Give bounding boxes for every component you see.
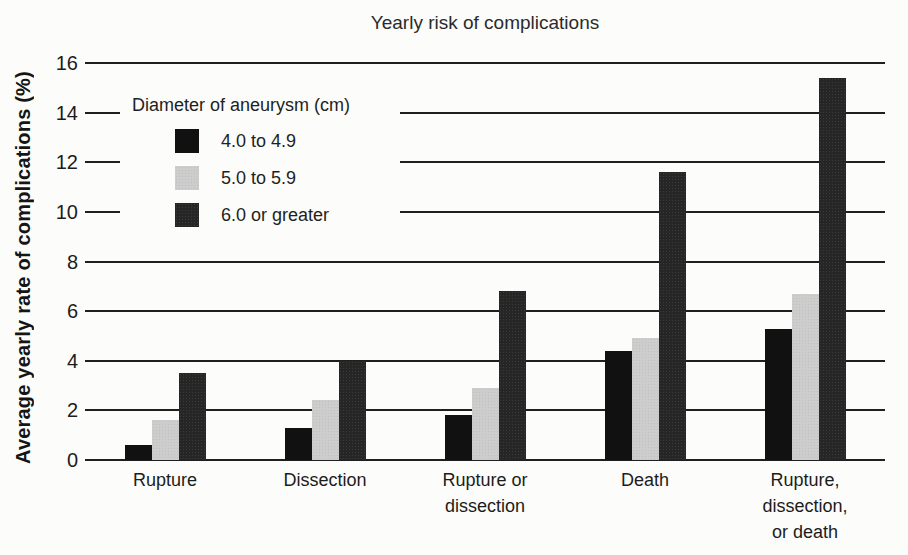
- y-tick-label: 6: [26, 299, 78, 323]
- x-category-label: Death: [565, 467, 725, 545]
- bar-group: [725, 63, 885, 460]
- x-category-label: Rupture or dissection: [405, 467, 565, 545]
- legend-label: 6.0 or greater: [221, 205, 329, 226]
- plot-area: Diameter of aneurysm (cm) 4.0 to 4.95.0 …: [85, 63, 885, 460]
- bar: [499, 291, 526, 460]
- legend-swatch: [175, 166, 199, 190]
- chart-figure: Yearly risk of complications Average yea…: [0, 0, 908, 555]
- bar: [792, 294, 819, 460]
- bar: [765, 329, 792, 461]
- bar: [339, 361, 366, 460]
- y-tick-label: 10: [26, 200, 78, 224]
- bar-group: [565, 63, 725, 460]
- y-axis-ticks: 0246810121416: [26, 63, 78, 460]
- legend-row: 4.0 to 4.9: [175, 129, 400, 153]
- bar: [285, 428, 312, 460]
- legend-row: 6.0 or greater: [175, 203, 400, 227]
- y-tick-label: 4: [26, 349, 78, 373]
- bar: [659, 172, 686, 460]
- x-category-label: Rupture, dissection, or death: [725, 467, 885, 545]
- legend-swatch: [175, 203, 199, 227]
- legend-title: Diameter of aneurysm (cm): [132, 95, 400, 116]
- y-tick-label: 16: [26, 51, 78, 75]
- y-tick-label: 8: [26, 250, 78, 274]
- legend-label: 5.0 to 5.9: [221, 168, 296, 189]
- x-category-label: Dissection: [245, 467, 405, 545]
- y-tick-label: 2: [26, 398, 78, 422]
- legend: Diameter of aneurysm (cm) 4.0 to 4.95.0 …: [120, 93, 400, 237]
- legend-row: 5.0 to 5.9: [175, 166, 400, 190]
- x-axis-labels: RuptureDissectionRupture or dissectionDe…: [85, 467, 885, 545]
- bar: [472, 388, 499, 460]
- legend-swatch: [175, 129, 199, 153]
- bar: [152, 420, 179, 460]
- chart-title: Yearly risk of complications: [85, 12, 885, 34]
- x-category-label: Rupture: [85, 467, 245, 545]
- bar: [445, 415, 472, 460]
- bar: [819, 78, 846, 460]
- bar: [179, 373, 206, 460]
- y-tick-label: 0: [26, 448, 78, 472]
- bar: [312, 400, 339, 460]
- legend-label: 4.0 to 4.9: [221, 131, 296, 152]
- bar: [632, 338, 659, 460]
- bar: [125, 445, 152, 460]
- bar: [605, 351, 632, 460]
- y-tick-label: 14: [26, 101, 78, 125]
- bar-group: [405, 63, 565, 460]
- y-tick-label: 12: [26, 150, 78, 174]
